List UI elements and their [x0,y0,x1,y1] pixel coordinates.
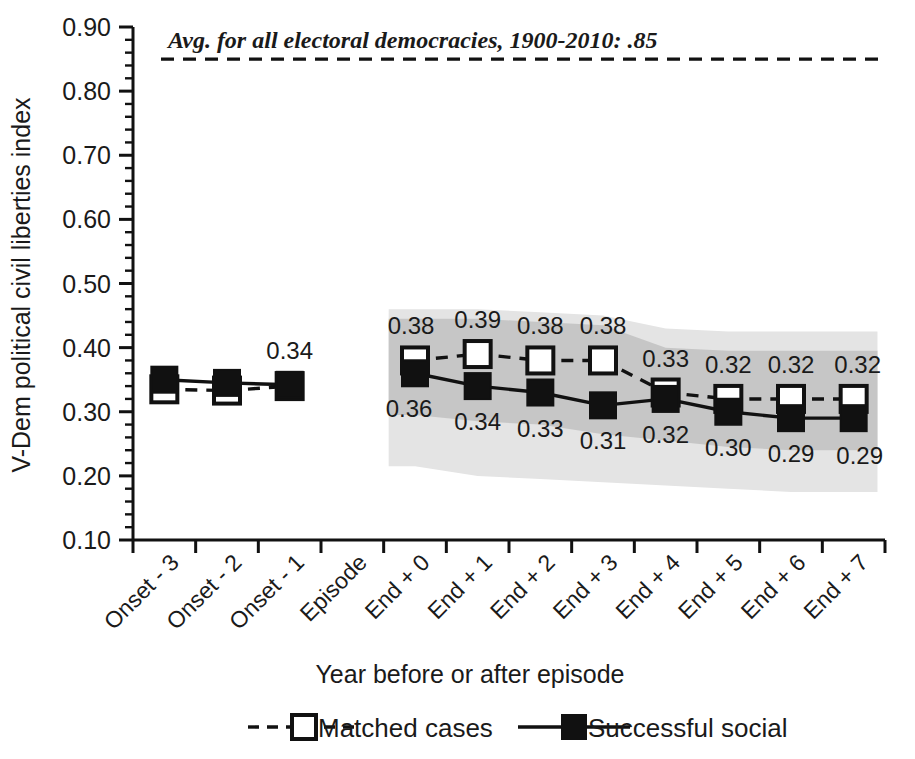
y-tick-label: 0.90 [62,13,111,41]
marker-filled-square [653,386,679,412]
data-label: 0.38 [580,312,627,339]
reference-line-annotation: Avg. for all electoral democracies, 1900… [166,27,657,53]
y-tick-label: 0.10 [62,526,111,554]
y-tick-label: 0.50 [62,270,111,298]
marker-open-square [590,347,616,373]
y-tick-label: 0.80 [62,77,111,105]
marker-filled-square [277,372,303,398]
data-label: 0.32 [705,351,752,378]
x-axis-title: Year before or after episode [315,660,624,688]
marker-open-square [527,347,553,373]
data-label: 0.29 [768,440,815,467]
data-label: 0.32 [642,421,689,448]
marker-filled-square [402,360,428,386]
data-label: 0.36 [386,395,433,422]
legend-marker-open-square [292,715,316,739]
y-tick-label: 0.20 [62,462,111,490]
data-label: 0.30 [705,434,752,461]
marker-filled-square [465,373,491,399]
legend-marker-filled-square [562,715,586,739]
marker-filled-square [778,405,804,431]
y-axis-title: V-Dem political civil liberties index [7,97,35,473]
data-label: 0.34 [266,337,313,364]
chart-container: Avg. for all electoral democracies, 1900… [0,0,915,759]
y-tick-label: 0.60 [62,205,111,233]
y-tick-label: 0.70 [62,141,111,169]
y-axis-tick-labels: 0.900.800.700.600.500.400.300.200.10 [62,13,111,554]
data-label: 0.31 [580,427,627,454]
civil-liberties-line-chart: Avg. for all electoral democracies, 1900… [0,0,915,759]
marker-filled-square [590,392,616,418]
data-label: 0.29 [836,442,883,469]
data-label: 0.32 [834,351,881,378]
data-label: 0.34 [454,408,501,435]
marker-filled-square [151,367,177,393]
data-label: 0.38 [388,312,435,339]
data-label: 0.33 [517,415,564,442]
data-label: 0.32 [768,351,815,378]
legend-label: Matched cases [318,713,493,743]
y-tick-label: 0.40 [62,334,111,362]
y-tick-label: 0.30 [62,398,111,426]
data-label: 0.39 [454,306,501,333]
data-label: 0.33 [642,345,689,372]
marker-filled-square [841,405,867,431]
marker-filled-square [214,370,240,396]
marker-filled-square [527,380,553,406]
marker-open-square [465,341,491,367]
marker-filled-square [715,399,741,425]
data-label: 0.38 [517,312,564,339]
legend-label: Successful social [588,713,787,743]
